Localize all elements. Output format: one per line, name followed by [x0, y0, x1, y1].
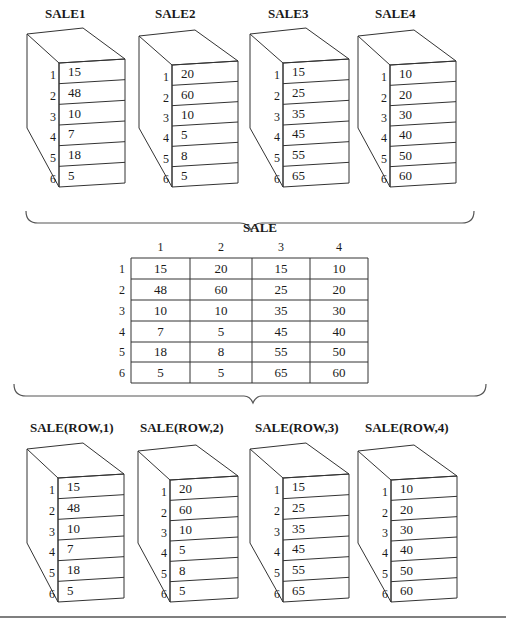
matrix-cell: 5 [218, 365, 225, 380]
row-index: 3 [50, 110, 56, 124]
cell-value: 5 [179, 542, 186, 557]
row-index: 1 [274, 68, 280, 82]
top_arrays-box-2: SALE2120260310455865 [139, 6, 238, 187]
matrix-cell: 20 [215, 261, 228, 276]
row-index: 1 [274, 483, 280, 497]
cell-value: 10 [68, 106, 81, 121]
cell-value: 35 [292, 521, 305, 536]
cell-value: 5 [181, 168, 188, 183]
cell-divider [172, 102, 238, 106]
cell-value: 20 [181, 66, 194, 81]
row-index: 3 [382, 526, 388, 540]
matrix-cell: 45 [275, 324, 288, 339]
cell-value: 45 [292, 126, 305, 141]
row-index: 5 [163, 152, 169, 166]
sale-matrix: SALE 1234 123456 15201510486025201010353… [119, 220, 368, 383]
cell-value: 40 [400, 542, 413, 557]
cell-divider [58, 577, 124, 581]
row-index: 6 [49, 587, 55, 601]
row-index: 5 [381, 152, 387, 166]
cell-divider [58, 536, 124, 540]
array-decomposition-diagram: SALE11152483104751865SALE212026031045586… [0, 0, 506, 624]
array-label: SALE(ROW,3) [255, 420, 339, 435]
cell-divider [283, 100, 349, 104]
box-top-face [139, 30, 238, 65]
cell-divider [59, 80, 125, 84]
column-header: 1 [158, 240, 164, 254]
cell-value: 30 [399, 107, 412, 122]
cell-divider [172, 142, 238, 146]
cell-value: 65 [292, 583, 305, 598]
cell-divider [390, 102, 456, 106]
row-index: 1 [50, 68, 56, 82]
cell-value: 60 [399, 168, 412, 183]
cell-divider [58, 515, 124, 519]
cell-value: 20 [399, 87, 412, 102]
row-index: 4 [50, 130, 56, 144]
row-index: 3 [163, 111, 169, 125]
box-top-face [250, 28, 349, 63]
cell-divider [59, 162, 125, 166]
matrix-cell: 60 [215, 282, 228, 297]
cell-divider [170, 537, 238, 541]
cell-divider [283, 495, 349, 499]
matrix-cell: 7 [157, 324, 164, 339]
row-index: 4 [161, 546, 167, 560]
bottom-arrays-group: SALE(ROW,1)1152483104751865SALE(ROW,2)12… [27, 420, 457, 602]
cell-divider [59, 142, 125, 146]
cell-divider [390, 122, 456, 126]
cell-divider [283, 577, 349, 581]
matrix-cell: 60 [333, 365, 346, 380]
cell-value: 5 [179, 583, 186, 598]
matrix-cell: 10 [333, 261, 346, 276]
cell-value: 35 [292, 106, 305, 121]
row-index: 3 [49, 525, 55, 539]
row-index: 1 [161, 485, 167, 499]
matrix-cell: 15 [275, 261, 288, 276]
matrix-cell: 48 [154, 282, 167, 297]
cell-value: 60 [179, 502, 192, 517]
matrix-title: SALE [243, 220, 277, 235]
matrix-grid: 1520151048602520101035307545401885550556… [131, 258, 368, 383]
cell-value: 48 [67, 500, 80, 515]
cell-divider [391, 496, 457, 500]
row-index: 6 [161, 587, 167, 601]
cell-value: 45 [292, 541, 305, 556]
row-index: 5 [274, 566, 280, 580]
row-index: 1 [381, 70, 387, 84]
box-top-face [27, 443, 124, 478]
row-index: 1 [382, 485, 388, 499]
matrix-cell: 25 [275, 282, 288, 297]
array-label: SALE2 [155, 6, 195, 21]
cell-divider [59, 100, 125, 104]
row-index: 5 [382, 567, 388, 581]
cell-value: 8 [179, 563, 186, 578]
row-header: 6 [119, 366, 125, 380]
bottom_arrays-box-3: SALE(ROW,3)115225335445555665 [250, 420, 349, 602]
matrix-cell: 20 [333, 282, 346, 297]
bottom-brace [14, 384, 486, 403]
cell-divider [170, 496, 238, 500]
cell-divider [390, 163, 456, 167]
box-top-face [250, 443, 349, 478]
top_arrays-box-3: SALE3115225335445555665 [250, 6, 349, 187]
cell-value: 15 [292, 479, 305, 494]
box-top-face [138, 445, 238, 480]
cell-value: 8 [181, 148, 188, 163]
cell-divider [391, 517, 457, 521]
cell-value: 55 [292, 562, 305, 577]
cell-divider [391, 537, 457, 541]
matrix-cell: 50 [333, 344, 346, 359]
row-index: 6 [50, 172, 56, 186]
column-header: 2 [218, 240, 224, 254]
row-index: 2 [381, 91, 387, 105]
cell-divider [283, 162, 349, 166]
row-header: 1 [119, 262, 125, 276]
row-index: 6 [274, 587, 280, 601]
array-label: SALE3 [268, 6, 309, 21]
matrix-cell: 8 [218, 344, 225, 359]
matrix-cell: 10 [154, 303, 167, 318]
array-label: SALE4 [375, 6, 416, 21]
cell-value: 18 [68, 147, 81, 162]
cell-divider [170, 578, 238, 582]
